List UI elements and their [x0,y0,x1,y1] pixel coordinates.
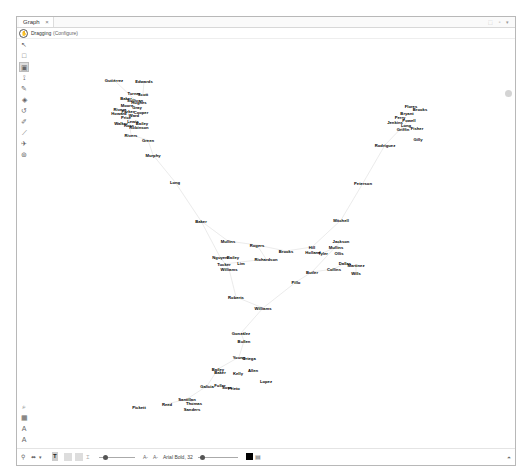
graph-node-label[interactable]: Baker [195,219,207,224]
graph-node-label[interactable]: Scott [138,92,148,97]
graph-window: Graph × ⬚ ▫ ▾ ✋ Dragging (Configure) ↖□▣… [16,16,516,466]
plane-icon[interactable]: ✈ [19,139,29,149]
font-selector[interactable]: Arial Bold, 32 [163,452,193,462]
graph-node-label[interactable]: Murphy [145,153,160,158]
edge-pencil-icon[interactable]: ⟋ [19,128,29,138]
edge-type-icon[interactable]: ⬌ [31,452,36,462]
graph-node-label[interactable]: Fisher [411,126,424,131]
mode-label: Dragging [31,28,51,38]
expand-icon[interactable]: ⏶ [507,452,511,462]
graph-edge [153,155,175,182]
graph-node-label[interactable]: Reed [162,402,172,407]
graph-node-label[interactable]: Tyler [318,251,328,256]
pointer-icon[interactable]: ↖ [19,40,29,50]
graph-node-label[interactable]: Mullins [221,239,235,244]
label-size-icon[interactable] [64,453,72,461]
graph-node-label[interactable]: Rogers [250,243,264,248]
label-color-icon[interactable] [75,453,83,461]
screenshot-icon[interactable]: ▦ [19,413,29,423]
font-decrease-icon[interactable]: A- [143,452,148,462]
configure-link[interactable]: (Configure) [53,28,78,38]
graph-node-label[interactable]: González [232,331,250,336]
graph-node-label[interactable]: Prieto [228,386,240,391]
font-size-slider[interactable] [198,457,238,458]
graph-node-label[interactable]: Martinez [348,263,365,268]
graph-node-label[interactable]: Pillo [292,280,301,285]
show-labels-icon[interactable]: T [52,452,58,461]
direct-select-icon[interactable]: ▣ [19,62,29,72]
settings-icon[interactable]: ▤ [255,452,261,462]
graph-node-label[interactable]: Collins [327,267,341,272]
graph-node-label[interactable]: Jackson [333,239,350,244]
text-size-icon[interactable]: A [19,424,29,434]
left-toolbar: ↖□▣⟟✎◈↺✐⟋✈⊚ [17,39,29,161]
graph-node-label[interactable]: Gutiérrez [105,78,123,83]
rectangle-select-icon[interactable]: □ [19,51,29,61]
graph-node-label[interactable]: Edwards [135,79,152,84]
graph-node-label[interactable]: Gilly [413,137,422,142]
graph-node-label[interactable]: Baker [214,370,226,375]
graph-node-label[interactable]: Ortega [242,356,256,361]
text-color-icon[interactable]: A [19,435,29,445]
graph-edge [201,221,220,257]
graph-node-label[interactable]: Lim [237,261,244,266]
graph-node-label[interactable]: Brooks [413,107,427,112]
graph-node-label[interactable]: Peterson [354,181,372,186]
graph-canvas[interactable]: GutiérrezEdwardsTurnerScottBakerSullivan… [31,39,505,449]
graph-node-label[interactable]: Rodriguez [375,143,395,148]
graph-node-label[interactable]: Robinson [129,125,148,130]
graph-node-label[interactable]: Wills [351,271,361,276]
pencil-icon[interactable]: ✎ [19,84,29,94]
chevron-down-icon[interactable]: ▾ [39,452,42,462]
graph-node-label[interactable]: Williams [255,306,272,311]
graph-node-label[interactable]: Rivers [125,133,138,138]
graph-node-label[interactable]: Long [170,180,180,185]
graph-node-label[interactable]: Pickett [132,405,146,410]
graph-node-label[interactable]: Kelly [233,371,243,376]
graph-node-label[interactable]: Roberts [228,295,244,300]
graph-node-label[interactable]: Green [142,138,154,143]
graph-node-label[interactable]: Allen [248,368,258,373]
painter-icon[interactable]: ◈ [19,95,29,105]
lasso-icon[interactable]: ⟟ [19,73,29,83]
graph-node-label[interactable]: Mullins [329,245,343,250]
graph-node-label[interactable]: Bailey [227,255,239,260]
graph-node-label[interactable]: Thomas [186,401,202,406]
graph-edge [363,145,385,183]
tab-title: Graph [23,19,40,25]
graph-node-label[interactable]: Butler [306,270,318,275]
left-toolbar-bottom: ⌕▦AA [17,401,29,446]
close-icon[interactable]: × [45,19,49,25]
graph-node-label[interactable]: Williams [221,267,238,272]
tab-bar: Graph × ⬚ ▫ ▾ [17,17,515,28]
hide-labels-icon[interactable]: ⌶ [86,452,90,462]
graph-node-label[interactable]: Sanders [184,407,201,412]
graph-node-label[interactable]: Mitchell [333,218,349,223]
graph-node-label[interactable]: Lopez [260,379,272,384]
graph-node-label[interactable]: Ollis [334,251,343,256]
window-controls[interactable]: ⬚ ▫ ▾ [488,17,511,27]
font-increase-icon[interactable]: A- [153,452,158,462]
graph-edge [241,308,263,333]
graph-node-label[interactable]: Brooks [279,249,293,254]
graph-edge [341,183,363,220]
label-color-swatch[interactable] [246,453,253,460]
graph-edges [31,39,507,451]
tab-graph[interactable]: Graph × [19,17,54,27]
bulb-icon[interactable]: ⚲ [21,452,25,462]
graph-node-label[interactable]: Griffin [397,127,410,132]
brush-icon[interactable]: ✐ [19,117,29,127]
dragging-mode-icon[interactable]: ✋ [19,29,28,38]
graph-node-label[interactable]: Bullen [238,339,251,344]
bottom-toolbar: ⚲ ⬌ ▾ T ⌶ A- A- Arial Bold, 32 ▤ ⏶ [17,448,515,465]
shortest-path-icon[interactable]: ↺ [19,106,29,116]
scroll-knob[interactable] [505,90,512,97]
graph-node-label[interactable]: Galicia [200,384,214,389]
graph-node-label[interactable]: Richardson [254,257,277,262]
graph-edge [263,282,296,308]
heatmap-icon[interactable]: ⊚ [19,150,29,160]
search-icon[interactable]: ⌕ [19,402,29,412]
edge-weight-slider[interactable] [99,457,135,458]
graph-node-label[interactable]: Nguyen [212,255,227,260]
graph-edge [175,182,201,221]
